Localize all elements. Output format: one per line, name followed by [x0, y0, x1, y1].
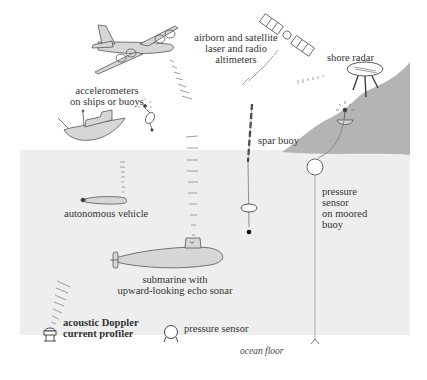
airplane-signal-waves	[170, 60, 192, 99]
label-pressure-moored-buoy: pressure sensor on moored buoy	[322, 186, 367, 230]
airplane-icon	[92, 25, 178, 74]
ship-icon	[58, 110, 125, 140]
label-autonomous-vehicle: autonomous vehicle	[64, 208, 148, 219]
pressure-sensor-icon	[164, 326, 178, 343]
label-airborne-altimeters: airborn and satellite laser and radio al…	[180, 32, 292, 65]
label-pressure-sensor: pressure sensor	[184, 323, 248, 334]
label-spar-buoy: spar buoy	[258, 135, 299, 146]
label-submarine: submarine with upward-looking echo sonar	[110, 274, 240, 296]
label-accelerometers: accelerometers on ships or buoys	[52, 85, 162, 107]
label-adcp: acoustic Doppler current profiler	[63, 317, 139, 339]
adcp-icon	[44, 328, 56, 341]
label-ocean-floor: ocean floor	[240, 346, 284, 357]
ocean-water	[20, 150, 410, 335]
label-shore-radar: shore radar	[327, 52, 374, 63]
radar-signal-waves	[298, 75, 323, 84]
